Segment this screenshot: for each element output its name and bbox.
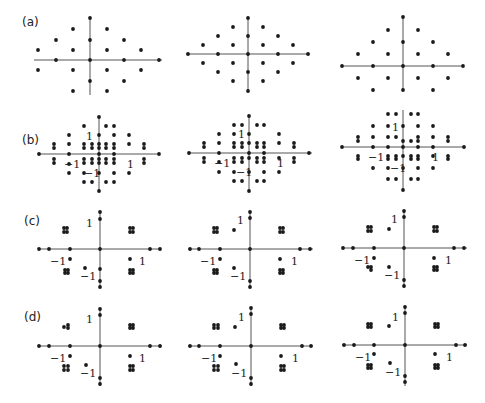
constellation-point (292, 145, 296, 149)
tick-label: −1 (50, 352, 66, 365)
constellation-point (104, 180, 108, 184)
tick-label: −1 (390, 162, 406, 175)
constellation-point (372, 256, 376, 260)
tick-label: 1 (238, 311, 245, 324)
tick-label: −1 (354, 254, 370, 267)
constellation-point (255, 160, 259, 164)
constellation-point (36, 68, 40, 72)
constellation-point (142, 142, 146, 146)
tick-label: 1 (291, 255, 298, 268)
constellation-point (409, 139, 413, 143)
constellation-point (402, 209, 406, 213)
constellation-point (97, 189, 101, 193)
constellation-point (98, 344, 102, 348)
constellation-point (82, 146, 86, 150)
constellation-point (279, 354, 283, 358)
constellation-point (122, 79, 126, 83)
constellation-point (112, 171, 116, 175)
constellation-point (371, 145, 375, 149)
constellation-point (202, 141, 206, 145)
constellation-point (157, 152, 161, 156)
tick-label: −1 (355, 351, 371, 364)
constellation-point (217, 132, 221, 136)
constellation-point (403, 343, 407, 347)
row-label: (a) (22, 15, 39, 29)
constellation-point (291, 61, 295, 65)
tick-label: 1 (446, 351, 453, 364)
constellation-point (122, 38, 126, 42)
constellation-point (409, 112, 413, 116)
constellation-point (463, 343, 467, 347)
constellation-point (356, 139, 360, 143)
constellation-point (240, 145, 244, 149)
constellation-point (97, 161, 101, 165)
constellation-point (292, 160, 296, 164)
tick-label: −1 (368, 151, 384, 164)
constellation-point (202, 160, 206, 164)
constellation-point (309, 344, 313, 348)
constellation-point (446, 139, 450, 143)
constellation-point (249, 376, 253, 380)
constellation-point (212, 368, 216, 372)
constellation-point (232, 141, 236, 145)
tick-label: 1 (432, 151, 439, 164)
constellation-point (98, 217, 102, 221)
constellation-point (240, 160, 244, 164)
constellation-point (369, 268, 373, 272)
constellation-point (233, 325, 237, 329)
constellation-point (356, 157, 360, 161)
constellation-point (68, 247, 72, 251)
constellation-point (356, 135, 360, 139)
constellation-point (187, 151, 191, 155)
constellation-point (371, 124, 375, 128)
constellation-point (386, 135, 390, 139)
constellation-point (352, 343, 356, 347)
constellation-point (248, 285, 252, 289)
constellation-point (66, 271, 70, 275)
constellation-point (261, 43, 265, 47)
constellation-point (255, 123, 259, 127)
constellation-point (446, 76, 450, 80)
constellation-point (401, 124, 405, 128)
constellation-point (255, 145, 259, 149)
constellation-point (246, 52, 250, 56)
constellation-point (249, 382, 253, 386)
constellation-point (128, 257, 132, 261)
constellation-point (98, 307, 102, 311)
constellation-point (247, 132, 251, 136)
constellation-point (240, 179, 244, 183)
constellation-point (372, 352, 376, 356)
constellation-point (308, 247, 312, 251)
constellation-point (462, 145, 466, 149)
constellation-point (217, 170, 221, 174)
constellation-point (37, 247, 41, 251)
tick-label: −1 (230, 270, 246, 283)
constellation-point (215, 271, 219, 275)
constellation-point (402, 284, 406, 288)
constellation-point (202, 145, 206, 149)
constellation-panel (340, 15, 465, 92)
constellation-point (416, 76, 420, 80)
constellation-point (218, 257, 222, 261)
constellation-point (388, 361, 392, 365)
constellation-point (90, 161, 94, 165)
constellation-point (403, 380, 407, 384)
constellation-panel: 1−1−11 (342, 305, 467, 386)
row-label: (c) (24, 214, 40, 228)
constellation-point (158, 344, 162, 348)
constellation-point (356, 52, 360, 56)
constellation-point (369, 366, 373, 370)
constellation-point (356, 76, 360, 80)
constellation-point (416, 157, 420, 161)
constellation-point (435, 225, 439, 229)
constellation-point (262, 179, 266, 183)
constellation-point (112, 133, 116, 137)
constellation-point (232, 156, 236, 160)
constellation-point (276, 52, 280, 56)
constellation-point (127, 171, 131, 175)
constellation-point (431, 145, 435, 149)
constellation-point (416, 135, 420, 139)
constellation-point (240, 156, 244, 160)
constellation-point (234, 362, 238, 366)
constellation-point (248, 210, 252, 214)
